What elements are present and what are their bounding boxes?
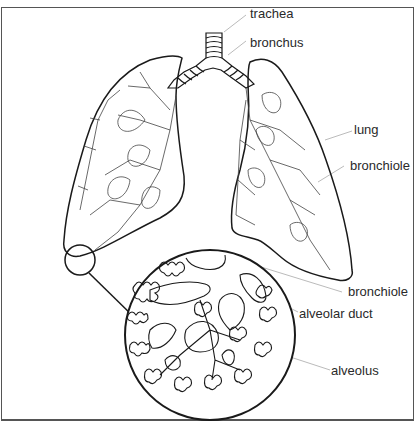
label-alveolar-duct: alveolar duct [299,307,373,320]
label-lung: lung [354,123,379,136]
label-alveolus: alveolus [331,364,379,377]
label-bronchiole-upper: bronchiole [350,159,410,172]
label-trachea: trachea [250,7,293,20]
label-bronchus: bronchus [250,36,303,49]
right-lung [231,59,352,280]
label-bronchiole-lower: bronchiole [348,285,408,298]
lungs-illustration [0,0,419,424]
diagram-frame: trachea bronchus lung bronchiole bronchi… [0,0,419,424]
left-lung [64,56,185,257]
magnify-circle-large [125,250,295,420]
magnify-circle-small [65,245,95,275]
leader-trachea [224,15,246,32]
